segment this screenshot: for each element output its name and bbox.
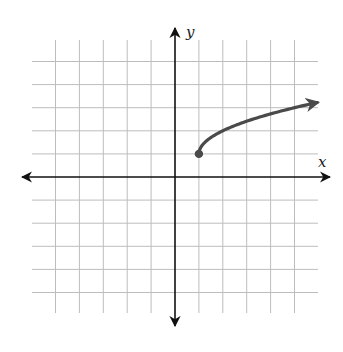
y-axis-label: y bbox=[185, 23, 195, 41]
closed-endpoint bbox=[195, 150, 203, 158]
function-curve bbox=[199, 103, 317, 154]
coordinate-plane: x y bbox=[0, 0, 343, 352]
x-axis-label: x bbox=[318, 153, 327, 171]
